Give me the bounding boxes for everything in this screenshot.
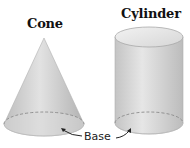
cylinder-title: Cylinder [121,6,181,21]
cone-shape [4,38,84,136]
cylinder-shape [115,27,183,134]
base-label: Base [84,130,111,143]
cone-title: Cone [27,16,63,31]
cylinder-top-face [115,27,183,47]
